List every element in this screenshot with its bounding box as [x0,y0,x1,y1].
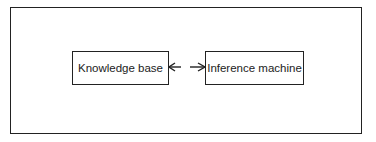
knowledge-base-label: Knowledge base [78,62,163,74]
knowledge-base-box: Knowledge base [72,51,169,85]
inference-machine-box: Inference machine [205,51,304,85]
inference-machine-label: Inference machine [207,62,302,74]
bidirectional-arrow-icon [168,58,206,78]
